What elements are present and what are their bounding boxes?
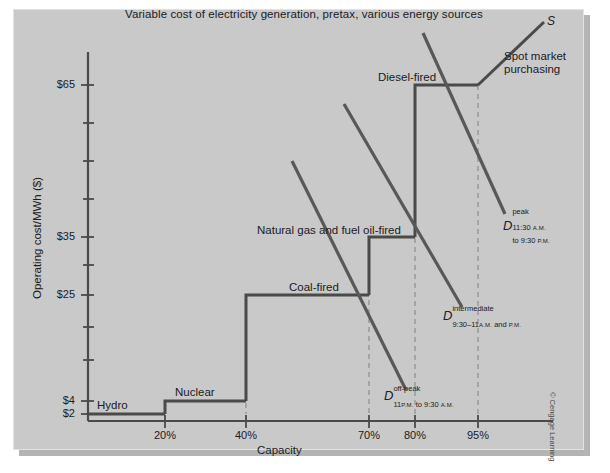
label-spot-market: Spot market purchasing [504,50,582,76]
copyright-credit: © Cengage Learning [548,392,557,461]
x-tick-label-80: 80% [390,429,440,441]
label-demand-intermediate: Dintermediate9:30–11A.M. and P.M. [443,305,521,329]
label-gas: Natural gas and fuel oil-fired [257,224,401,236]
page-title: Variable cost of electricity generation,… [125,8,483,20]
label-nuclear: Nuclear [175,386,215,398]
demand-intermediate-sub: 9:30–11A.M. and P.M. [452,320,521,329]
y-tick-label-4: $4 [31,394,75,406]
demand-intermediate-line [344,104,462,307]
demand-offpeak-sub: 11P.M. to 9:30 A.M. [393,400,453,409]
supply-step-gas [369,237,415,295]
label-diesel: Diesel-fired [378,71,436,83]
demand-offpeak-d: D [384,388,393,403]
x-tick-label-20: 20% [140,429,190,441]
label-hydro: Hydro [97,399,128,411]
demand-intermediate-d: D [443,308,452,323]
label-coal: Coal-fired [289,281,339,293]
supply-step-nuclear [165,401,246,414]
demand-curves [292,33,505,390]
demand-peak-d: D [503,218,512,233]
supply-step-diesel [415,85,478,237]
demand-peak-sub-line2: to 9:30 P.M. [512,236,549,245]
y-tick-label-65: $65 [31,78,75,90]
y-tick-label-25: $25 [31,288,75,300]
figure-root: Variable cost of electricity generation,… [0,0,610,473]
y-tick-label-35: $35 [31,230,75,242]
label-supply-curve: S [547,14,555,28]
demand-offpeak-sup: off-peak [393,384,420,393]
x-axis-label: Capacity [257,444,302,456]
demand-peak-sub-line1: 11:30 A.M. [512,223,545,232]
x-tick-label-95: 95% [453,429,503,441]
label-demand-offpeak: Doff-peak11P.M. to 9:30 A.M. [384,385,454,409]
supply-step-coal [246,295,369,401]
demand-peak-line [423,33,505,214]
supply-curve [89,22,544,414]
y-tick-label-2: $2 [31,407,75,419]
x-tick-label-70: 70% [344,429,394,441]
demand-peak-sup: peak [512,207,528,216]
x-tick-label-40: 40% [221,429,271,441]
label-demand-peak: Dpeak11:30 A.M.to 9:30 P.M. [503,208,550,246]
demand-intermediate-sup: intermediate [452,304,493,313]
demand-offpeak-line [292,161,406,390]
